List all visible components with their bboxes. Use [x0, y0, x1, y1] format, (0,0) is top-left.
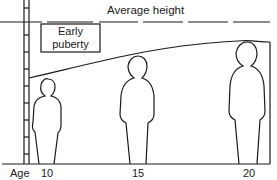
age-tick-10: 10	[41, 167, 53, 179]
early-puberty-line1: Early	[41, 25, 100, 38]
early-puberty-label: Early puberty	[41, 25, 100, 51]
figure-age-15	[120, 56, 154, 164]
early-puberty-line2: puberty	[41, 38, 100, 51]
age-axis-label: Age	[10, 167, 30, 179]
figure-age-10	[32, 79, 61, 164]
average-height-label: Average height	[107, 4, 184, 16]
figure-age-20	[229, 42, 265, 164]
age-tick-20: 20	[243, 167, 255, 179]
age-tick-15: 15	[132, 167, 144, 179]
measuring-ruler	[24, 0, 29, 164]
